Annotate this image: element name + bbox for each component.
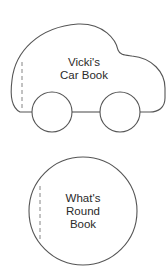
book-shapes-diagram [0, 0, 168, 274]
round-book-title-line-3: Book [45, 218, 121, 231]
car-book-title-line-2: Car Book [40, 69, 128, 82]
round-book-title-line-1: What's [45, 192, 121, 205]
round-book-title-line-2: Round [45, 205, 121, 218]
car-book-title-line-1: Vicki's [40, 56, 128, 69]
car-right-wheel [100, 92, 140, 132]
car-book-title: Vicki's Car Book [40, 56, 128, 82]
car-left-wheel [32, 92, 72, 132]
round-book-title: What's Round Book [45, 192, 121, 231]
